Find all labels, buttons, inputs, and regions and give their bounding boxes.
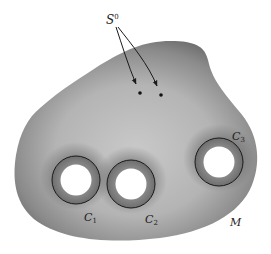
surface-diagram: S0 C1 C2 C3 M <box>0 0 271 254</box>
boundary-circle-c1 <box>52 156 100 204</box>
boundary-circle-c2 <box>107 160 155 208</box>
boundary-circle-c3 <box>195 138 243 186</box>
point-s0-1 <box>138 91 142 95</box>
label-m: M <box>229 216 242 229</box>
label-s0: S0 <box>106 13 119 27</box>
point-s0-2 <box>159 93 163 97</box>
